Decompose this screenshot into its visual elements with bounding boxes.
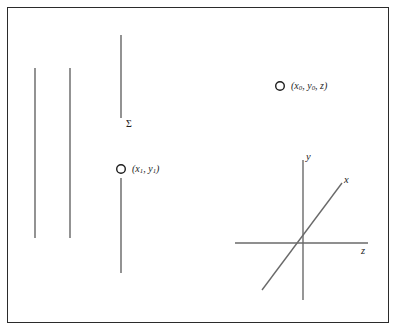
axis-label-x: x [344,175,349,186]
point-markers-group [117,82,285,174]
axis-line-x [262,183,342,290]
point-label-x0-y0-z: (x0, y0, z) [291,81,327,92]
point-label-z-tail: , z) [315,80,327,91]
field-lines-group [35,35,121,273]
point-marker-x1-y1 [117,165,126,174]
axis-label-z: z [361,246,365,257]
point-label-close-paren: ) [156,163,159,174]
point-marker-x0-y0-z [276,82,285,91]
axis-label-y: y [306,152,311,163]
sigma-surface-label: Σ [126,119,132,129]
figure-drawing-canvas [0,0,398,333]
figure-container: Σ (x1, y1) (x0, y0, z) y z x [0,0,398,333]
point-label-x1-y1: (x1, y1) [132,164,159,175]
